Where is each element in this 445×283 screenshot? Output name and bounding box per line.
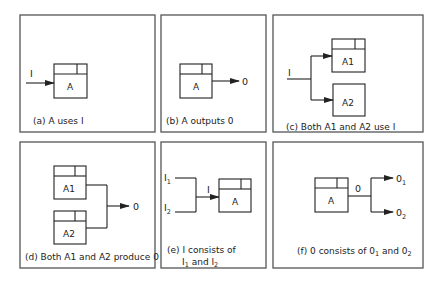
panel-caption: (a) A uses I [33, 116, 84, 126]
input-label-i: I [288, 67, 291, 78]
activity-box-a2: A2 [333, 84, 365, 116]
panel-caption: (b) A outputs 0 [166, 116, 234, 126]
box-label: A [67, 82, 74, 92]
output-join-arrows [86, 185, 129, 228]
box-label: A [193, 82, 200, 92]
activity-box-a1: A1 [332, 39, 365, 72]
box-label: A2 [63, 229, 75, 239]
panel-e: I1 I2 I A (e) I consists of I1 and I2 [161, 142, 266, 269]
panel-caption: (c) Both A1 and A2 use I [286, 122, 395, 132]
activity-box-a2: A2 [54, 211, 86, 244]
panel-caption-line1: (e) I consists of [167, 245, 237, 255]
input-branch-arrows [287, 56, 333, 100]
output-label-0: 0 [242, 76, 248, 87]
output-label-o1: 01 [396, 173, 406, 187]
panel-b: A 0 (b) A outputs 0 [161, 15, 266, 132]
input-join-arrows [175, 178, 219, 212]
input-label-i1: I1 [164, 172, 171, 186]
activity-box-a1: A1 [54, 166, 86, 199]
panel-d: A1 A2 0 (d) Both A1 and A2 produce 0 [20, 142, 159, 268]
input-label-i: I [30, 68, 33, 79]
merged-output-label-0: 0 [355, 183, 361, 194]
merged-input-label-i: I [207, 184, 210, 195]
diagram-figure: A I (a) A uses I A 0 (b) A outputs 0 A1 … [0, 0, 445, 283]
activity-box-a: A [180, 64, 212, 98]
box-label: A [328, 196, 335, 206]
box-label: A2 [342, 98, 354, 108]
box-label: A1 [342, 57, 354, 67]
panel-c: A1 A2 I (c) Both A1 and A2 use I [273, 15, 423, 132]
activity-box-a: A [54, 64, 87, 98]
panel-caption: (f) 0 consists of 01 and 02 [297, 246, 412, 258]
input-label-i2: I2 [164, 202, 171, 216]
panel-a: A I (a) A uses I [20, 15, 155, 132]
panel-frame [161, 15, 266, 132]
box-label: A1 [63, 184, 75, 194]
panel-caption-line2: I1 and I2 [182, 257, 218, 269]
activity-box-a: A [315, 178, 348, 212]
box-label: A [232, 197, 239, 207]
activity-box-a: A [219, 179, 251, 212]
output-label-0: 0 [133, 201, 139, 212]
output-label-o2: 02 [396, 207, 406, 221]
panel-f: A 0 01 02 (f) 0 consists of 01 and 02 [273, 142, 423, 268]
panel-caption: (d) Both A1 and A2 produce 0 [25, 252, 159, 262]
